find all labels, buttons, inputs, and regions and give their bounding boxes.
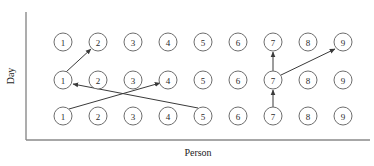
node-r2-c8[interactable]: 9 [334,107,352,125]
node-r0-c5[interactable]: 6 [229,33,247,51]
arrow-mid1-to-top2 [66,49,91,72]
node-r2-c0[interactable]: 1 [54,107,72,125]
node-label: 9 [341,112,346,122]
node-label: 7 [271,76,276,86]
node-r0-c7[interactable]: 8 [299,33,317,51]
node-label: 3 [131,38,136,48]
node-r1-c6[interactable]: 7 [264,71,282,89]
node-r1-c2[interactable]: 3 [124,71,142,89]
node-r1-c3[interactable]: 4 [159,71,177,89]
node-r1-c4[interactable]: 5 [194,71,212,89]
node-label: 8 [306,76,311,86]
node-r2-c6[interactable]: 7 [264,107,282,125]
node-label: 9 [341,38,346,48]
node-label: 1 [61,38,66,48]
node-label: 4 [166,76,171,86]
node-r2-c4[interactable]: 5 [194,107,212,125]
nodes-group: 123456789123456789123456789 [54,33,352,125]
node-label: 4 [166,38,171,48]
node-r1-c1[interactable]: 2 [89,71,107,89]
node-r2-c3[interactable]: 4 [159,107,177,125]
node-r0-c3[interactable]: 4 [159,33,177,51]
node-label: 3 [131,112,136,122]
node-r0-c8[interactable]: 9 [334,33,352,51]
arrow-bot1-to-mid4 [69,83,160,109]
node-r0-c6[interactable]: 7 [264,33,282,51]
node-r0-c1[interactable]: 2 [89,33,107,51]
node-r2-c7[interactable]: 8 [299,107,317,125]
node-r1-c5[interactable]: 6 [229,71,247,89]
node-label: 7 [271,38,276,48]
node-label: 6 [236,112,241,122]
node-r0-c2[interactable]: 3 [124,33,142,51]
node-label: 2 [96,76,101,86]
node-label: 9 [341,76,346,86]
node-label: 5 [201,76,206,86]
node-label: 6 [236,38,241,48]
node-label: 6 [236,76,241,86]
node-label: 1 [61,76,66,86]
node-r2-c2[interactable]: 3 [124,107,142,125]
node-label: 2 [96,112,101,122]
node-r0-c4[interactable]: 5 [194,33,212,51]
node-label: 4 [166,112,171,122]
node-label: 8 [306,38,311,48]
node-r1-c0[interactable]: 1 [54,71,72,89]
node-r2-c5[interactable]: 6 [229,107,247,125]
node-r2-c1[interactable]: 2 [89,107,107,125]
y-axis-label: Day [5,68,16,85]
figure-canvas: 123456789123456789123456789 Day Person [0,0,374,166]
node-label: 5 [201,112,206,122]
node-label: 3 [131,76,136,86]
node-r1-c7[interactable]: 8 [299,71,317,89]
node-label: 5 [201,38,206,48]
x-axis-label: Person [184,147,211,158]
node-r0-c0[interactable]: 1 [54,33,72,51]
node-label: 8 [306,112,311,122]
node-label: 7 [271,112,276,122]
node-label: 1 [61,112,66,122]
diagram-svg: 123456789123456789123456789 Day Person [0,0,374,166]
node-r1-c8[interactable]: 9 [334,71,352,89]
node-label: 2 [96,38,101,48]
